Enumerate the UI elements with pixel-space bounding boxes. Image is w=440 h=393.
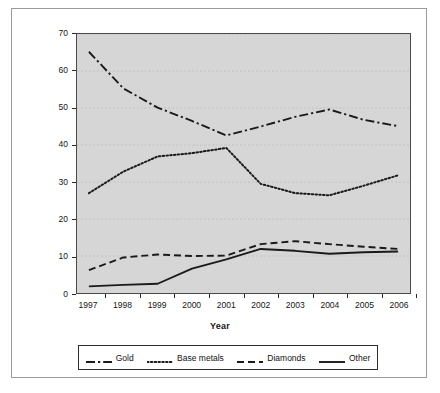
legend-item-base-metals[interactable]: Base metals (147, 353, 224, 363)
series-group (89, 52, 398, 287)
x-tick-mark (244, 294, 245, 298)
solid-swatch-icon (319, 353, 345, 363)
y-tick-label: 50 (42, 103, 68, 112)
x-tick-mark (347, 294, 348, 298)
series-line-base-metals (89, 148, 398, 195)
y-tick-label: 0 (42, 290, 68, 299)
x-tick-label: 2006 (379, 300, 419, 310)
series-line-diamonds (89, 241, 398, 270)
legend-item-gold[interactable]: Gold (86, 353, 134, 363)
x-tick-mark (416, 294, 417, 298)
y-tick-label: 60 (42, 66, 68, 75)
x-tick-mark (140, 294, 141, 298)
chart-lines (77, 34, 410, 293)
y-tick-label: 20 (42, 215, 68, 224)
y-tick-label: 40 (42, 140, 68, 149)
legend-item-other[interactable]: Other (319, 353, 370, 363)
x-tick-mark (174, 294, 175, 298)
x-tick-mark (105, 294, 106, 298)
dotted-swatch-icon (147, 353, 173, 363)
x-tick-mark (209, 294, 210, 298)
gridlines (77, 34, 410, 256)
chart-figure: Percentage 010203040506070 1997199819992… (11, 8, 427, 378)
y-tick-label: 10 (42, 252, 68, 261)
x-tick-mark (313, 294, 314, 298)
series-line-other (89, 249, 398, 286)
legend-label: Gold (116, 353, 134, 363)
dash-dot-swatch-icon (86, 353, 112, 363)
plot-area (76, 33, 411, 294)
dashed-swatch-icon (237, 353, 263, 363)
x-tick-mark (382, 294, 383, 298)
x-axis-ticks: 1997199819992000200120022003200420052006 (76, 294, 411, 316)
x-axis-title: Year (12, 321, 428, 331)
legend-label: Other (349, 353, 370, 363)
y-axis-ticks: 010203040506070 (42, 33, 76, 294)
legend-label: Base metals (177, 353, 224, 363)
series-line-gold (89, 52, 398, 136)
legend-label: Diamonds (267, 353, 305, 363)
chart-legend: GoldBase metalsDiamondsOther (78, 345, 378, 370)
legend-item-diamonds[interactable]: Diamonds (237, 353, 305, 363)
x-tick-mark (278, 294, 279, 298)
y-tick-label: 30 (42, 178, 68, 187)
y-tick-label: 70 (42, 29, 68, 38)
